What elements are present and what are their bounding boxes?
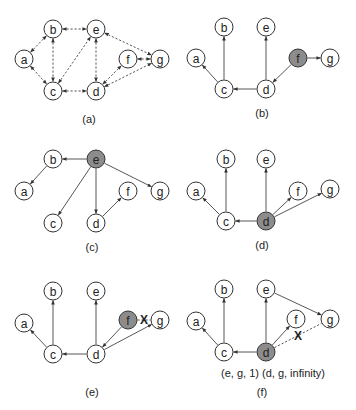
panel-caption: (a) [82,113,95,125]
node-label: g [157,53,164,67]
node-a: a [187,312,205,330]
node-label: a [193,185,200,199]
node-a: a [187,182,205,200]
node-e: e [257,150,275,168]
node-label: d [93,348,100,362]
panel-caption: (b) [255,107,268,119]
node-e: e [87,282,105,300]
node-c: c [215,343,233,361]
edge-a-c [30,66,46,84]
node-label: g [327,52,334,66]
node-g: g [151,50,169,68]
edge-d-f [272,326,289,345]
node-label: b [50,153,57,167]
panel-d: abecdfg(d) [187,150,339,251]
edge-c-a [30,330,46,347]
edge-c-a [202,65,217,82]
node-e: e [87,150,105,168]
node-label: a [193,52,200,66]
panels: abecdfg(a)abecdfg(b)abecdfg(c)abecdfg(d)… [15,18,339,398]
edge-c-a [202,328,217,345]
node-g: g [151,182,169,200]
node-label: b [221,21,228,35]
panel-e: Xabecdfg(e) [15,282,169,398]
node-label: g [157,185,164,199]
edge-d-f [273,197,291,214]
node-label: e [93,153,100,167]
node-b: b [215,18,233,36]
panel-a: abecdfg(a) [15,20,169,125]
node-label: b [223,153,230,167]
node-b: b [44,150,62,168]
edge-e-c [58,167,90,215]
node-d: d [257,343,275,361]
node-label: b [50,23,57,37]
node-f: f [119,182,137,200]
panel-caption: (e) [85,386,98,398]
node-label: e [263,283,270,297]
cut-edge-icon: X [294,329,302,343]
node-d: d [87,82,105,100]
panel-caption: (c) [86,241,99,253]
node-label: a [21,185,28,199]
node-c: c [215,80,233,98]
node-f: f [119,311,137,329]
edge-f-d [273,65,291,83]
node-label: e [93,285,100,299]
node-label: g [327,313,334,327]
node-g: g [321,180,339,198]
node-b: b [44,20,62,38]
node-c: c [44,345,62,363]
node-label: d [263,83,270,97]
node-a: a [15,50,33,68]
node-label: d [93,85,100,99]
panel-caption: (d) [255,239,268,251]
node-c: c [44,214,62,232]
node-label: b [50,285,57,299]
node-label: g [327,183,334,197]
panel-caption: (f) [257,386,267,398]
node-label: c [50,348,56,362]
node-label: e [93,23,100,37]
node-d: d [257,212,275,230]
node-label: d [263,346,270,360]
node-d: d [257,80,275,98]
node-label: c [223,215,229,229]
node-b: b [215,280,233,298]
node-label: a [21,53,28,67]
node-label: e [263,153,270,167]
node-f: f [287,310,305,328]
node-c: c [217,212,235,230]
edge-weight-note: (e, g, 1) (d, g, infinity) [221,367,325,379]
node-f: f [119,50,137,68]
edge-a-b [31,36,47,52]
node-label: b [221,283,228,297]
node-f: f [289,182,307,200]
node-label: a [21,317,28,331]
node-g: g [321,310,339,328]
node-f: f [289,49,307,67]
node-a: a [187,49,205,67]
node-label: c [50,85,56,99]
edge-d-f [103,198,122,217]
edge-d-f [103,66,122,85]
panel-f: Xabecdfg(e, g, 1) (d, g, infinity)(f) [187,280,339,398]
node-d: d [87,345,105,363]
node-e: e [257,18,275,36]
edge-b-a [30,166,46,184]
node-b: b [217,150,235,168]
panel-b: abecdfg(b) [187,18,339,119]
node-label: c [221,83,227,97]
node-b: b [44,282,62,300]
edge-c-e [58,37,90,83]
node-g: g [151,311,169,329]
node-d: d [87,214,105,232]
node-a: a [15,182,33,200]
panel-c: abecdfg(c) [15,150,169,253]
edge-f-d [103,327,122,347]
node-g: g [321,49,339,67]
node-e: e [257,280,275,298]
node-label: d [93,217,100,231]
cut-edge-icon: X [140,313,148,327]
node-c: c [44,82,62,100]
